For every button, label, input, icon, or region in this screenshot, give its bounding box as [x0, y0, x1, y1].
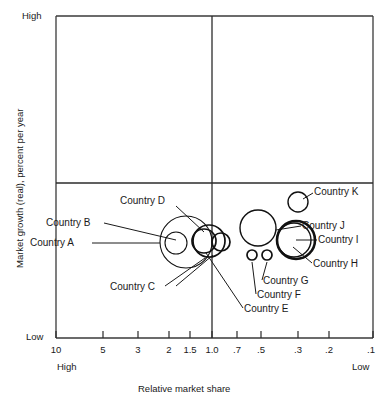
- y-axis-title: Market growth (real), percent per year: [14, 68, 25, 268]
- bubble-country-f: [247, 250, 257, 260]
- x-tick-label-0p3: .3: [291, 345, 305, 355]
- bubble-country-e: [212, 233, 230, 251]
- x-tick-label-2: 2: [161, 345, 177, 355]
- quadrant-dividers: [56, 16, 373, 338]
- bubble-label-country-c: Country C: [110, 282, 155, 292]
- x-tick-label-5: 5: [95, 345, 111, 355]
- x-axis-ticks: [56, 331, 373, 338]
- y-axis-low-label: Low: [26, 332, 43, 342]
- bubble-country-a: [160, 216, 212, 268]
- bubble-label-country-h: Country H: [313, 259, 358, 269]
- x-tick-label-1p0: 1.0: [200, 345, 224, 355]
- bubble-country-j: [240, 210, 276, 246]
- leader-country-f: [252, 262, 256, 294]
- bubble-label-country-j: Country J: [302, 221, 345, 231]
- x-tick-label-10: 10: [48, 345, 64, 355]
- plot-frame: [56, 16, 373, 338]
- bubble-country-g: [262, 250, 272, 260]
- bubble-label-country-f: Country F: [257, 290, 301, 300]
- bubble-label-country-i: Country I: [318, 235, 359, 245]
- leader-country-c2: [176, 255, 213, 286]
- leader-country-c: [165, 258, 205, 286]
- bubble-label-country-g: Country G: [263, 276, 309, 286]
- bubble-label-country-b: Country B: [46, 218, 90, 228]
- x-tick-label-0p1: .1: [364, 345, 378, 355]
- bubble-label-country-k: Country K: [314, 187, 358, 197]
- bubble-label-country-a: Country A: [30, 238, 74, 248]
- y-axis-high-label: High: [22, 11, 42, 21]
- x-tick-label-3: 3: [130, 345, 146, 355]
- bubble-country-k: [288, 192, 308, 212]
- x-tick-label-0p7: .7: [230, 345, 244, 355]
- bubble-label-country-d: Country D: [120, 196, 165, 206]
- bubbles: [160, 192, 315, 268]
- x-tick-label-1p5: 1.5: [178, 345, 202, 355]
- x-axis-high-label: High: [57, 362, 77, 372]
- bubble-label-country-e: Country E: [244, 304, 288, 314]
- bcg-growth-share-matrix: High Low Market growth (real), percent p…: [0, 0, 381, 398]
- x-axis-low-label: Low: [352, 362, 369, 372]
- bubble-country-b: [165, 232, 187, 254]
- x-tick-label-0p2: .2: [322, 345, 336, 355]
- chart-canvas: [0, 0, 381, 398]
- x-axis-title: Relative market share: [138, 384, 230, 394]
- x-tick-label-0p5: .5: [254, 345, 268, 355]
